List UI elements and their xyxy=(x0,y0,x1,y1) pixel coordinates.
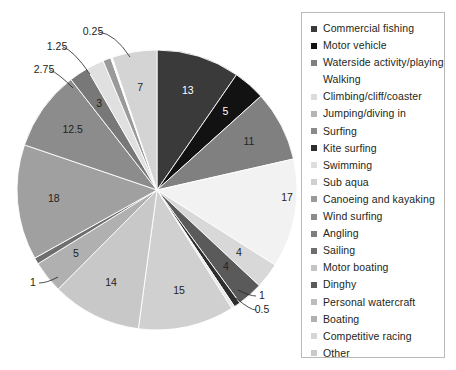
legend-item[interactable]: Swimming xyxy=(311,157,444,174)
legend-item[interactable]: Walking xyxy=(311,71,444,88)
pie-slice-value-label: 12.5 xyxy=(62,123,83,135)
legend-item-label: Canoeing and kayaking xyxy=(323,191,435,208)
pie-slice-value-label: 11 xyxy=(243,135,254,147)
legend-item[interactable]: Motor vehicle xyxy=(311,37,444,54)
legend-item-label: Kite surfing xyxy=(323,140,377,157)
pie-slice-value-label: 4 xyxy=(223,260,229,272)
legend-item[interactable]: Commercial fishing xyxy=(311,20,444,37)
pie-slice-value-label: 1 xyxy=(259,289,265,301)
legend-item[interactable]: Kite surfing xyxy=(311,140,444,157)
legend-item[interactable]: Surfing xyxy=(311,123,444,140)
pie-slice-value-label: 15 xyxy=(173,284,185,296)
pie-slice-value-label: 1.25 xyxy=(47,40,68,52)
pie-slice-value-label: 0.25 xyxy=(83,25,104,37)
pie-slice-value-label: 3 xyxy=(96,97,102,109)
legend-item-label: Motor vehicle xyxy=(323,37,387,54)
legend-item[interactable]: Wind surfing xyxy=(311,208,444,225)
pie-svg: 13511174410.51514511812.532.751.250.257 xyxy=(0,0,300,370)
legend-swatch-icon xyxy=(311,333,317,339)
legend-item[interactable]: Other xyxy=(311,345,444,362)
legend-item[interactable]: Dinghy xyxy=(311,276,444,293)
legend-item-label: Competitive racing xyxy=(323,328,412,345)
pie-slice-value-label: 0.5 xyxy=(255,303,270,315)
legend-swatch-icon xyxy=(311,128,317,134)
pie-slice-value-label: 5 xyxy=(222,105,228,117)
legend-swatch-icon xyxy=(311,248,317,254)
legend-item-label: Waterside activity/playing xyxy=(323,54,444,71)
legend-swatch-icon xyxy=(311,299,317,305)
legend-item[interactable]: Sailing xyxy=(311,242,444,259)
legend-swatch-icon xyxy=(311,111,317,117)
pie-slices-group xyxy=(17,50,297,330)
legend-item-label: Angling xyxy=(323,225,359,242)
legend-swatch-icon xyxy=(311,350,317,356)
legend-item[interactable]: Canoeing and kayaking xyxy=(311,191,444,208)
legend-item[interactable]: Waterside activity/playing xyxy=(311,54,444,71)
legend-swatch-icon xyxy=(311,196,317,202)
pie-slice-value-label: 7 xyxy=(137,81,143,93)
legend-item-label: Dinghy xyxy=(323,276,356,293)
legend-item-label: Sailing xyxy=(323,242,355,259)
legend-item-label: Other xyxy=(323,345,350,362)
legend-item-label: Commercial fishing xyxy=(323,20,414,37)
pie-slice-value-label: 2.75 xyxy=(34,63,55,75)
legend-swatch-icon xyxy=(311,265,317,271)
legend-swatch-icon xyxy=(311,77,317,83)
legend-swatch-icon xyxy=(311,60,317,66)
legend-swatch-icon xyxy=(311,316,317,322)
legend-item-label: Climbing/cliff/coaster xyxy=(323,88,422,105)
legend-item-label: Sub aqua xyxy=(323,174,369,191)
pie-slice-value-label: 18 xyxy=(48,192,60,204)
legend-swatch-icon xyxy=(311,145,317,151)
pie-plot-area: 13511174410.51514511812.532.751.250.257 xyxy=(0,0,300,370)
legend-swatch-icon xyxy=(311,282,317,288)
pie-slice-value-label: 1 xyxy=(30,276,36,288)
legend-item-label: Swimming xyxy=(323,157,372,174)
pie-slice-value-label: 13 xyxy=(182,84,194,96)
pie-slice-value-label: 5 xyxy=(73,247,79,259)
legend-swatch-icon xyxy=(311,43,317,49)
legend-item[interactable]: Jumping/diving in xyxy=(311,105,444,122)
legend-item-label: Boating xyxy=(323,311,359,328)
legend-item-label: Personal watercraft xyxy=(323,294,415,311)
legend-item-label: Wind surfing xyxy=(323,208,383,225)
legend-item-label: Walking xyxy=(323,71,361,88)
legend-item[interactable]: Competitive racing xyxy=(311,328,444,345)
legend-item[interactable]: Personal watercraft xyxy=(311,294,444,311)
legend-swatch-icon xyxy=(311,26,317,32)
legend-item[interactable]: Angling xyxy=(311,225,444,242)
legend-item[interactable]: Climbing/cliff/coaster xyxy=(311,88,444,105)
legend-item-label: Surfing xyxy=(323,123,357,140)
legend-item[interactable]: Boating xyxy=(311,311,444,328)
legend-swatch-icon xyxy=(311,94,317,100)
chart-legend: Commercial fishingMotor vehicleWaterside… xyxy=(301,12,445,358)
legend-item[interactable]: Motor boating xyxy=(311,259,444,276)
legend-item-label: Motor boating xyxy=(323,259,389,276)
legend-item-label: Jumping/diving in xyxy=(323,105,406,122)
pie-slice-value-label: 14 xyxy=(105,276,117,288)
legend-swatch-icon xyxy=(311,162,317,168)
legend-swatch-icon xyxy=(311,231,317,237)
pie-slice-value-label: 4 xyxy=(236,246,242,258)
pie-slice-value-label: 17 xyxy=(281,191,293,203)
legend-swatch-icon xyxy=(311,179,317,185)
pie-chart-figure: 13511174410.51514511812.532.751.250.257 … xyxy=(0,0,456,370)
legend-item[interactable]: Sub aqua xyxy=(311,174,444,191)
legend-swatch-icon xyxy=(311,214,317,220)
